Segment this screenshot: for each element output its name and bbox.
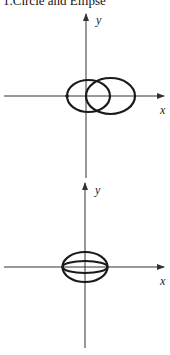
y-axis-label: y — [95, 13, 102, 27]
diagram-canvas: y x y x — [0, 0, 170, 355]
intercept-point — [65, 94, 69, 98]
figure-1: y x — [4, 13, 166, 178]
figure-2: y x — [4, 183, 166, 348]
x-axis-label: x — [159, 274, 166, 288]
x-axis-label: x — [159, 103, 166, 117]
y-axis-label: y — [94, 183, 101, 197]
